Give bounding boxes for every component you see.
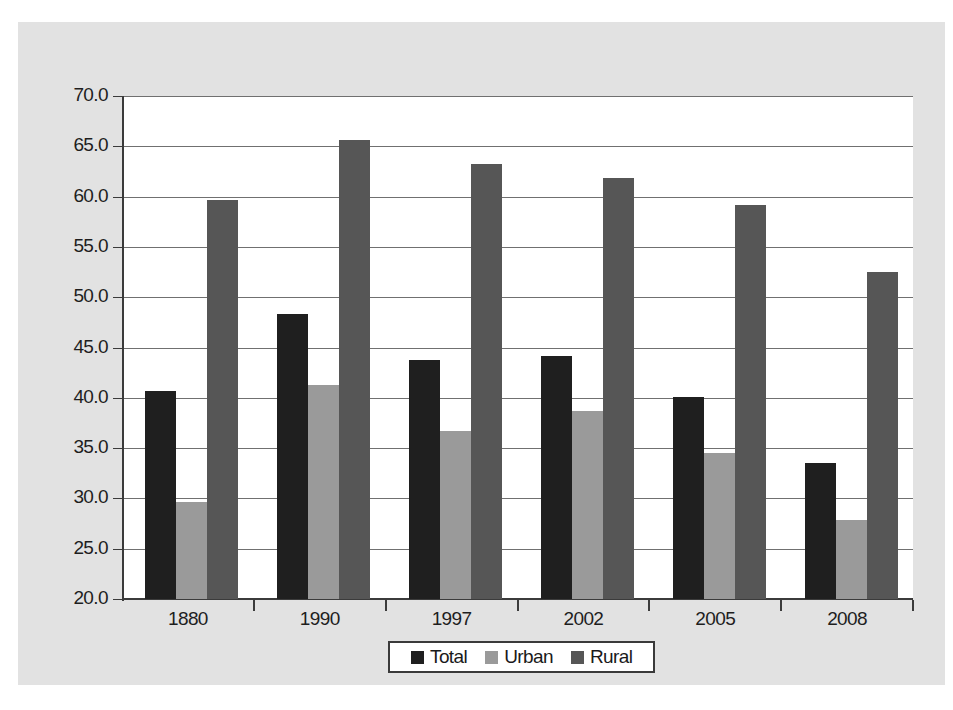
legend-entry-urban: Urban: [485, 646, 553, 668]
bar-urban-2008: [836, 520, 867, 599]
bar-total-1997: [409, 360, 440, 599]
y-axis-tick-label: 55.0: [52, 235, 108, 257]
legend-label: Rural: [590, 646, 632, 668]
bar-rural-2005: [735, 205, 766, 599]
gridline: [122, 448, 913, 449]
plot-area: [122, 96, 913, 599]
gridline: [122, 348, 913, 349]
bar-urban-2005: [704, 453, 735, 599]
y-axis-tick-mark: [113, 146, 122, 147]
y-axis-tick-mark: [113, 498, 122, 499]
gridline: [122, 398, 913, 399]
bar-rural-2008: [867, 272, 898, 599]
legend-entry-total: Total: [411, 646, 467, 668]
y-axis-tick-label: 70.0: [52, 84, 108, 106]
bar-total-2005: [673, 397, 704, 599]
y-axis-tick-label: 40.0: [52, 386, 108, 408]
bar-total-1990: [277, 314, 308, 599]
bar-rural-2002: [603, 178, 634, 600]
bar-urban-2002: [572, 411, 603, 599]
y-axis-tick-label: 25.0: [52, 537, 108, 559]
y-axis-tick-mark: [113, 448, 122, 449]
gridline: [122, 96, 913, 97]
gridline: [122, 146, 913, 147]
bar-total-2008: [805, 463, 836, 599]
gridline: [122, 247, 913, 248]
chart-panel: 70.065.060.055.050.045.040.035.030.025.0…: [18, 22, 945, 685]
y-axis-tick-mark: [113, 96, 122, 97]
y-axis-tick-label: 30.0: [52, 486, 108, 508]
y-axis-tick-label: 35.0: [52, 436, 108, 458]
gridline: [122, 498, 913, 499]
chart-legend: TotalUrbanRural: [388, 641, 655, 673]
chart-figure: 70.065.060.055.050.045.040.035.030.025.0…: [0, 0, 953, 710]
legend-label: Urban: [504, 646, 553, 668]
y-axis-tick-mark: [113, 297, 122, 298]
y-axis-tick-mark: [113, 549, 122, 550]
x-axis-tick-label-2008: 2008: [781, 608, 913, 630]
bar-urban-1997: [440, 431, 471, 599]
bar-rural-1990: [339, 140, 370, 599]
legend-swatch-icon-urban: [485, 651, 498, 664]
x-axis-tick-label-2005: 2005: [649, 608, 781, 630]
gridline: [122, 549, 913, 550]
y-axis-line: [122, 96, 124, 601]
x-axis-tick-label-1997: 1997: [386, 608, 518, 630]
bar-urban-1880: [176, 502, 207, 599]
y-axis-tick-label: 50.0: [52, 285, 108, 307]
y-axis-tick-label: 20.0: [52, 587, 108, 609]
legend-entry-rural: Rural: [571, 646, 632, 668]
y-axis-tick-label: 60.0: [52, 185, 108, 207]
y-axis-tick-mark: [113, 197, 122, 198]
gridline: [122, 197, 913, 198]
x-axis-tick-label-2002: 2002: [518, 608, 650, 630]
bar-urban-1990: [308, 385, 339, 599]
y-axis-tick-label: 65.0: [52, 134, 108, 156]
y-axis-tick-mark: [113, 398, 122, 399]
legend-swatch-icon-rural: [571, 651, 584, 664]
y-axis-tick-label: 45.0: [52, 336, 108, 358]
y-axis-tick-mark: [113, 599, 122, 600]
bar-total-1880: [145, 391, 176, 599]
bar-rural-1997: [471, 164, 502, 599]
y-axis-tick-mark: [113, 247, 122, 248]
legend-swatch-icon-total: [411, 651, 424, 664]
legend-label: Total: [430, 646, 467, 668]
x-axis-tick-label-1880: 1880: [122, 608, 254, 630]
x-axis-tick-label-1990: 1990: [254, 608, 386, 630]
gridline: [122, 297, 913, 298]
bar-total-2002: [541, 356, 572, 599]
y-axis-tick-mark: [113, 348, 122, 349]
bar-rural-1880: [207, 200, 238, 599]
